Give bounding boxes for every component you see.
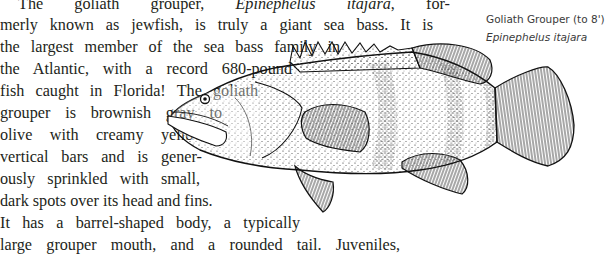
figure-caption-common-name: Goliath Grouper (to 8') (486, 13, 605, 25)
text-line-12: large grouper mouth, and a rounded tail.… (0, 235, 400, 255)
tail-fin (495, 67, 574, 166)
figure-caption-scientific-name: Epinephelus itajara (486, 31, 587, 43)
